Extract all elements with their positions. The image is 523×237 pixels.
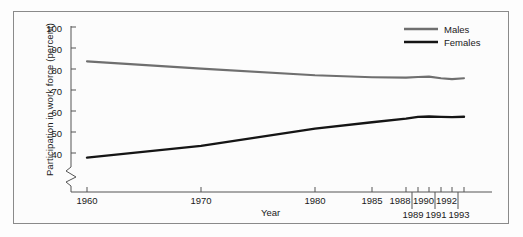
x-axis-title: Year <box>261 207 280 218</box>
x-tick-label-1993: 1993 <box>447 209 471 220</box>
legend-label-females: Females <box>444 37 480 48</box>
series-line-males <box>87 61 464 79</box>
x-tick-label-1970: 1970 <box>185 195 217 206</box>
figure-canvas: Participation in work force (percent) 10… <box>0 0 523 237</box>
x-tick-label-1988: 1988 <box>388 195 412 206</box>
x-tick-label-1980: 1980 <box>299 195 331 206</box>
plot-area <box>14 12 510 225</box>
x-tick-label-1989: 1989 <box>401 209 425 220</box>
y-axis-break-icon <box>66 167 76 186</box>
chart-frame: Participation in work force (percent) 10… <box>13 11 509 224</box>
x-tick-label-1985: 1985 <box>356 195 388 206</box>
legend-label-males: Males <box>444 24 469 35</box>
x-tick-label-1990: 1990 <box>412 195 435 206</box>
x-tick-label-1992: 1992 <box>435 195 458 206</box>
series-line-females <box>87 117 464 158</box>
x-tick-label-1960: 1960 <box>71 195 103 206</box>
x-tick-label-1991: 1991 <box>424 209 448 220</box>
